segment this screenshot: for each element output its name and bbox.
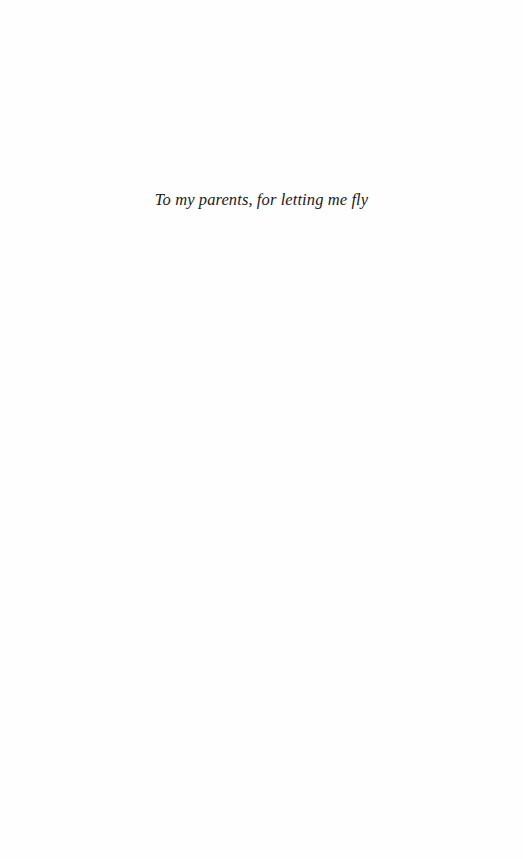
dedication-text: To my parents, for letting me fly xyxy=(0,189,523,211)
book-page: To my parents, for letting me fly xyxy=(0,0,523,859)
